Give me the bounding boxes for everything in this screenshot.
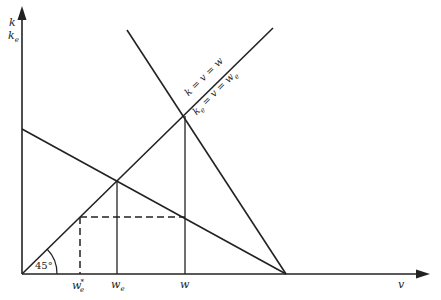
ke-base: k	[8, 29, 15, 42]
ke-sub: e	[15, 36, 19, 44]
tick-base: w	[111, 278, 120, 291]
angle-label-45: 45°	[35, 261, 53, 271]
tick-sub: e	[80, 286, 84, 294]
y-axis-label-k: k	[9, 17, 16, 28]
45-degree-line	[22, 28, 273, 274]
tick-base: w	[180, 278, 189, 291]
x-axis-label-v: v	[398, 279, 404, 290]
x-tick-we: we	[111, 279, 125, 293]
y-axis-arrow-icon	[18, 6, 27, 20]
x-tick-we-star: w*e	[72, 279, 84, 294]
economics-diagram	[0, 0, 441, 300]
x-tick-w: w	[180, 279, 189, 290]
shallow-descending-line	[22, 129, 286, 274]
tick-sup: *	[80, 278, 84, 286]
tick-sub: e	[120, 285, 124, 293]
x-axis-arrow-icon	[416, 270, 430, 279]
y-axis-label-ke: ke	[8, 30, 19, 44]
